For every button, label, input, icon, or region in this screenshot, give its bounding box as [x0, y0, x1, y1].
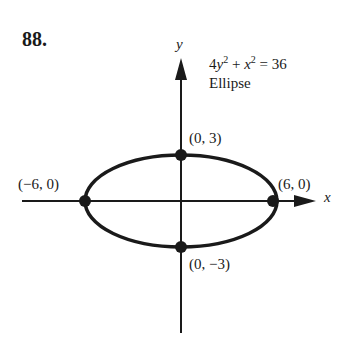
y-axis-arrow-icon — [175, 58, 187, 80]
point-0-neg3 — [175, 241, 187, 253]
y-axis-label: y — [176, 36, 183, 53]
label-point-0-3: (0, 3) — [189, 130, 222, 147]
label-point-6-0: (6, 0) — [278, 176, 311, 193]
label-point-neg6-0: (−6, 0) — [18, 176, 59, 193]
eq-exp-2: 2 — [251, 54, 256, 65]
equation: 4y2 + x2 = 36 — [209, 54, 287, 73]
x-axis-label: x — [324, 189, 331, 206]
x-axis-arrow-icon — [294, 195, 316, 207]
point-0-3 — [175, 149, 187, 161]
curve-type-label: Ellipse — [209, 75, 251, 92]
point-6-0 — [267, 195, 279, 207]
eq-exp-1: 2 — [223, 54, 228, 65]
point-neg6-0 — [79, 195, 91, 207]
problem-number: 88. — [22, 28, 47, 51]
eq-var-x: x — [244, 56, 251, 72]
eq-equals: = — [260, 56, 268, 72]
eq-coef: 4 — [209, 56, 217, 72]
eq-op: + — [232, 56, 240, 72]
eq-rhs: 36 — [272, 56, 287, 72]
label-point-0-neg3: (0, −3) — [189, 256, 230, 273]
